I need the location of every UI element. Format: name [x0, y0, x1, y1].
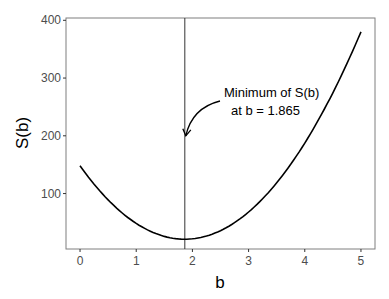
y-tick-label: 300 [41, 71, 61, 85]
x-tick-label: 2 [189, 254, 196, 268]
y-tick-label: 200 [41, 129, 61, 143]
y-axis: 100200300400 [41, 13, 66, 200]
plot-panel [66, 18, 375, 249]
x-tick-label: 4 [301, 254, 308, 268]
y-axis-title: S(b) [13, 117, 32, 149]
annotation-line-1: Minimum of S(b) [224, 85, 319, 100]
x-tick-label: 3 [245, 254, 252, 268]
y-tick-label: 400 [41, 13, 61, 27]
panel-border [66, 18, 375, 249]
annotation-line-2: at b = 1.865 [231, 103, 300, 118]
chart: 100200300400 012345 Minimum of S(b) at b… [0, 0, 389, 299]
y-tick-label: 100 [41, 187, 61, 201]
x-tick-label: 1 [133, 254, 140, 268]
x-axis: 012345 [77, 249, 365, 268]
x-tick-label: 0 [77, 254, 84, 268]
x-axis-title: b [215, 273, 224, 292]
x-tick-label: 5 [358, 254, 365, 268]
